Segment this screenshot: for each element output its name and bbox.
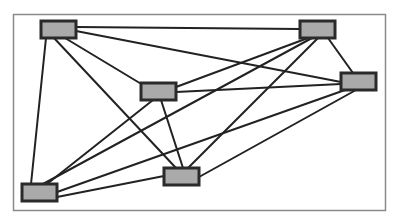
edge-b-d xyxy=(176,38,308,87)
edge-a-e xyxy=(54,38,176,168)
node-c xyxy=(341,73,376,90)
edge-b-c xyxy=(328,38,353,73)
network-diagram xyxy=(0,0,397,220)
node-f xyxy=(22,184,57,201)
nodes-group xyxy=(22,21,376,201)
node-a xyxy=(41,21,76,38)
edge-c-d xyxy=(176,84,341,92)
edge-d-f xyxy=(47,100,153,184)
node-d xyxy=(141,83,176,100)
node-e xyxy=(164,168,199,185)
edge-a-b xyxy=(76,27,300,29)
edge-b-f xyxy=(43,38,312,184)
node-b xyxy=(300,21,335,38)
edge-a-f xyxy=(31,38,46,184)
